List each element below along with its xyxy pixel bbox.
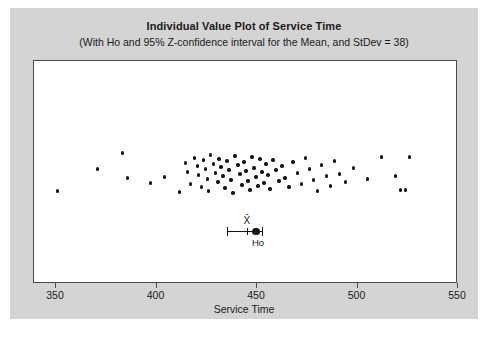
mean-label: X̄ xyxy=(227,215,267,226)
chart-figure: Individual Value Plot of Service Time (W… xyxy=(10,8,478,319)
hypothesis-label: Ho xyxy=(238,237,278,248)
confidence-interval-marker: X̄ Ho xyxy=(10,8,478,319)
ci-cap-right xyxy=(262,227,263,236)
ci-cap-left xyxy=(227,227,228,236)
mean-tick xyxy=(247,228,248,235)
hypothesis-dot xyxy=(252,228,260,236)
